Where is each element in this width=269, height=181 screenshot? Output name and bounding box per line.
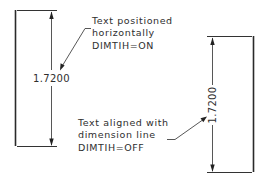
right-note-line-2: dimension line xyxy=(78,129,156,140)
right-note-line-1: Text aligned with xyxy=(77,117,169,128)
right-arrowhead-top xyxy=(210,38,214,46)
left-note-line-1: Text positioned xyxy=(91,15,173,26)
right-arrowhead-bottom xyxy=(210,165,214,173)
dimension-text-diagram: 1.7200 Text positioned horizontally DIMT… xyxy=(0,0,269,181)
left-note-line-2: horizontally xyxy=(92,27,155,38)
right-note-line-3: DIMTIH=OFF xyxy=(78,142,144,153)
left-dimension-value: 1.7200 xyxy=(33,73,70,84)
right-leader-line xyxy=(167,119,204,140)
right-dimension-value: 1.7200 xyxy=(207,87,218,124)
left-leader-line xyxy=(61,29,91,69)
left-arrowhead-top xyxy=(49,12,53,20)
left-leader-arrowhead xyxy=(60,63,65,70)
left-note-line-3: DIMTIH=ON xyxy=(92,40,154,51)
left-arrowhead-bottom xyxy=(49,139,53,147)
right-dimension-figure: 1.7200 Text aligned with dimension line … xyxy=(77,36,254,173)
